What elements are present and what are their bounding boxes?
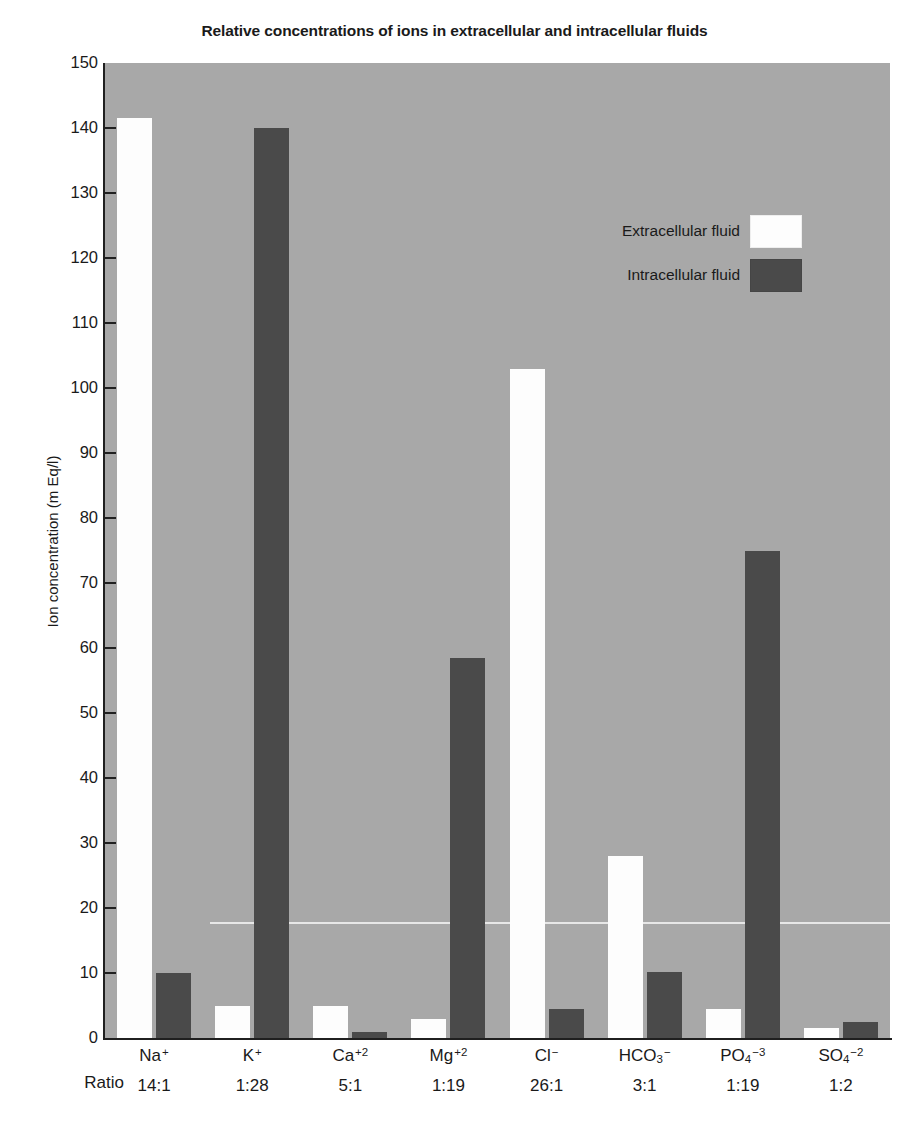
y-tick-label: 140 [43,119,98,136]
x-axis-group: Na+14:1 [105,1046,203,1095]
y-axis-tick [105,907,116,909]
y-axis-tick [105,127,116,129]
ion-ratio-value: 1:19 [694,1077,792,1095]
y-tick-label: 0 [43,1029,98,1046]
ion-ratio-value: 1:19 [399,1077,497,1095]
bar-intracellular [156,973,191,1038]
y-axis-tick [105,257,116,259]
bar-intracellular [647,972,682,1038]
y-tick-label: 90 [43,444,98,461]
plot-area: Extracellular fluid Intracellular fluid [105,63,890,1038]
y-tick-label: 20 [43,899,98,916]
y-tick-label: 120 [43,249,98,266]
y-axis-tick [105,842,116,844]
y-tick-label: 80 [43,509,98,526]
bar-intracellular [450,658,485,1038]
y-tick-label: 70 [43,574,98,591]
ion-label: Na+ [105,1046,203,1065]
ion-ratio-value: 14:1 [105,1077,203,1095]
y-tick-label: 30 [43,834,98,851]
legend-swatch-intracellular [750,259,802,292]
bar-extracellular [804,1028,839,1038]
ion-ratio-value: 3:1 [596,1077,694,1095]
y-axis-tick [105,387,116,389]
y-axis-line [103,63,105,1040]
bar-extracellular [411,1019,446,1039]
ion-label: Cl− [498,1046,596,1065]
ion-ratio-value: 26:1 [498,1077,596,1095]
x-axis-group: HCO3−3:1 [596,1046,694,1095]
ion-label: SO4−2 [792,1046,890,1065]
x-axis-group: Cl−26:1 [498,1046,596,1095]
y-tick-label: 110 [43,314,98,331]
y-axis-tick-labels: 0102030405060708090100110120130140150 [36,0,98,1132]
ion-label: Ca+2 [301,1046,399,1065]
legend-label-intracellular: Intracellular fluid [556,266,740,284]
bar-extracellular [608,856,643,1038]
x-axis-group: SO4−21:2 [792,1046,890,1095]
bar-intracellular [254,128,289,1038]
x-axis-line [103,1038,892,1040]
y-axis-tick [105,192,116,194]
ion-label: PO4−3 [694,1046,792,1065]
ion-ratio-value: 1:28 [203,1077,301,1095]
legend-swatch-extracellular [750,215,802,248]
bar-intracellular [843,1022,878,1038]
bar-extracellular [313,1006,348,1039]
legend-item-extracellular: Extracellular fluid [556,215,806,259]
y-axis-tick [105,712,116,714]
chart-title: Relative concentrations of ions in extra… [0,22,909,40]
y-axis-tick [105,972,116,974]
x-axis-group: K+1:28 [203,1046,301,1095]
y-tick-label: 60 [43,639,98,656]
y-axis-tick [105,517,116,519]
y-axis-tick [105,582,116,584]
bar-series-container [105,63,890,1038]
legend-label-extracellular: Extracellular fluid [556,222,740,240]
ion-label: Mg+2 [399,1046,497,1065]
y-axis-tick [105,647,116,649]
y-axis-tick [105,777,116,779]
ion-ratio-value: 5:1 [301,1077,399,1095]
bar-intracellular [745,551,780,1039]
bar-extracellular [706,1009,741,1038]
bar-extracellular [510,369,545,1039]
y-tick-label: 150 [43,54,98,71]
y-tick-label: 10 [43,964,98,981]
bar-extracellular [215,1006,250,1039]
x-axis-group: Ca+25:1 [301,1046,399,1095]
legend-item-intracellular: Intracellular fluid [556,259,806,303]
x-axis-group: PO4−31:19 [694,1046,792,1095]
y-axis-tick [105,452,116,454]
chart-legend: Extracellular fluid Intracellular fluid [556,215,806,303]
scan-artifact-text [0,0,909,14]
ion-label: HCO3− [596,1046,694,1065]
bar-intracellular [549,1009,584,1038]
y-tick-label: 100 [43,379,98,396]
y-tick-label: 40 [43,769,98,786]
x-axis-group: Mg+21:19 [399,1046,497,1095]
ion-label: K+ [203,1046,301,1065]
y-axis-tick [105,322,116,324]
y-tick-label: 50 [43,704,98,721]
ion-ratio-value: 1:2 [792,1077,890,1095]
bar-extracellular [117,118,152,1038]
x-axis-group-labels: Na+14:1K+1:28Ca+25:1Mg+21:19Cl−26:1HCO3−… [105,1046,890,1126]
y-tick-label: 130 [43,184,98,201]
